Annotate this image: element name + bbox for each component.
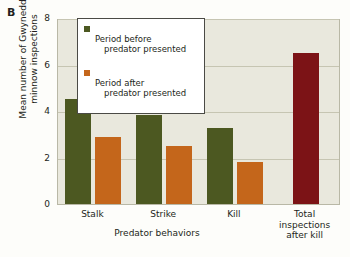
legend-label: Period before predator presented	[95, 24, 186, 64]
y-axis-title: Mean number of Gwynedd minnow inspection…	[18, 0, 40, 154]
bar	[207, 128, 233, 204]
x-tick-label: Strike	[118, 209, 208, 220]
bar	[65, 99, 91, 204]
bar	[95, 137, 121, 204]
x-tick-label: Kill	[189, 209, 279, 220]
bar	[237, 162, 263, 204]
y-tick-label: 2	[26, 154, 50, 163]
legend-item: Period after predator presented	[84, 68, 198, 108]
x-tick-label: Total inspections after kill	[260, 209, 350, 241]
figure-panel-b: B Mean number of Gwynedd minnow inspecti…	[0, 0, 350, 257]
legend-swatch-icon	[84, 26, 90, 32]
bar	[136, 115, 162, 205]
bar	[166, 146, 192, 204]
x-tick-label: Stalk	[47, 209, 137, 220]
legend-swatch-icon	[84, 70, 90, 76]
legend-item: Period before predator presented	[84, 24, 198, 64]
panel-label: B	[7, 6, 16, 19]
bar	[293, 53, 319, 204]
legend: Period before predator presented Period …	[77, 18, 205, 114]
x-axis-title: Predator behaviors	[57, 228, 257, 238]
y-tick-label: 0	[26, 200, 50, 209]
legend-label: Period after predator presented	[95, 68, 186, 108]
